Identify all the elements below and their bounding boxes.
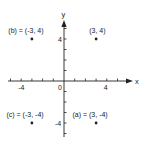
x-axis-arrow-icon: [126, 78, 133, 83]
point-dot-icon: [95, 38, 98, 41]
point: (a) = (3, -4): [73, 111, 108, 124]
point-label: (b) = (-3, 4): [8, 27, 43, 35]
y-axis-arrow-icon: [61, 20, 66, 27]
point-dot-icon: [31, 38, 34, 41]
y-tick-label: -4: [55, 120, 61, 127]
x-tick-label: 4: [104, 84, 108, 91]
point-label: (a) = (3, -4): [73, 111, 108, 119]
y-tick-label: 4: [58, 36, 62, 43]
x-tick-label: -4: [18, 84, 24, 91]
point: (c) = (-3, -4): [6, 111, 43, 124]
point-dot-icon: [95, 122, 98, 125]
x-axis-label: x: [135, 77, 139, 86]
origin-label: 0: [58, 84, 62, 91]
point-label: (c) = (-3, -4): [6, 111, 43, 119]
point-dot-icon: [31, 122, 34, 125]
point-label: (3, 4): [89, 27, 105, 35]
point: (3, 4): [89, 27, 105, 40]
y-axis-label: y: [62, 10, 66, 19]
coordinate-plane: xy -444-40 (b) = (-3, 4)(3, 4)(c) = (-3,…: [0, 0, 149, 149]
point: (b) = (-3, 4): [8, 27, 43, 40]
